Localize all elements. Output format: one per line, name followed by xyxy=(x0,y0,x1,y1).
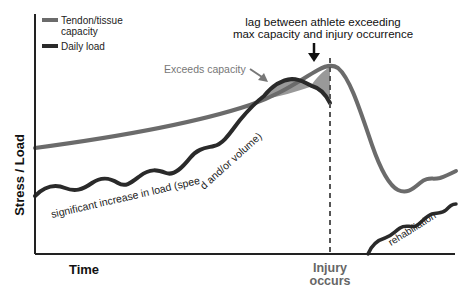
legend-capacity-label-2: capacity xyxy=(61,26,98,37)
injury-label-line1: Injury xyxy=(313,261,347,275)
legend-load-label: Daily load xyxy=(61,41,105,52)
capacity-curve xyxy=(35,66,456,192)
lag-annotation-line2: max capacity and injury occurrence xyxy=(233,28,413,40)
lag-arrow-icon xyxy=(308,53,320,62)
increase-label-b: d and/or volume) xyxy=(197,130,264,192)
lag-annotation-line1: lag between athlete exceeding xyxy=(245,16,400,28)
exceeds-arrow-shaft xyxy=(250,69,262,77)
exceeds-capacity-label: Exceeds capacity xyxy=(164,63,246,75)
rehab-label: rehabiliation xyxy=(386,210,438,248)
increase-label-a: significant increase in load (spee xyxy=(50,174,201,220)
diagram-canvas: Tendon/tissue capacity Daily load lag be… xyxy=(0,0,466,296)
legend-capacity-label-1: Tendon/tissue xyxy=(61,15,123,26)
x-axis-label: Time xyxy=(69,262,99,277)
injury-label-line2: occurs xyxy=(310,274,351,288)
y-axis-label: Stress / Load xyxy=(12,134,27,216)
